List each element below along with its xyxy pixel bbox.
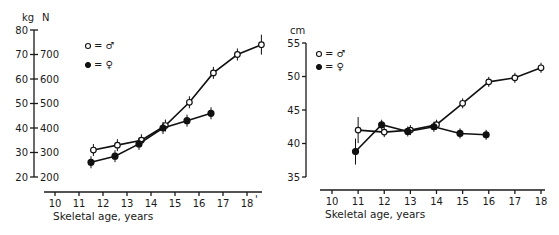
x-tick-label: 14 — [430, 196, 443, 207]
figure: 20304050607080200300400500600700kgN10111… — [0, 0, 559, 235]
y-tick-label-secondary: 600 — [40, 74, 59, 85]
x-tick-label: 15 — [456, 196, 469, 207]
female-data-point — [112, 153, 118, 159]
male-series-line — [93, 45, 261, 150]
y-unit-newton: N — [42, 12, 49, 23]
legend-open-circle-icon — [317, 52, 322, 57]
female-data-point — [431, 124, 437, 130]
y-tick-label: 30 — [15, 147, 28, 158]
male-data-point — [187, 99, 193, 105]
right-chart-length: 3540455055cm101112131415161718Skeletal a… — [287, 25, 547, 220]
male-data-point — [235, 52, 241, 58]
female-series-line — [356, 125, 487, 152]
y-tick-label-secondary: 200 — [40, 172, 59, 183]
female-data-point — [379, 122, 385, 128]
x-axis-label: Skeletal age, years — [325, 208, 425, 220]
male-data-point — [486, 79, 492, 85]
female-data-point — [483, 132, 489, 138]
male-data-point — [91, 147, 97, 153]
y-tick-label: 60 — [15, 74, 28, 85]
female-data-point — [208, 110, 214, 116]
female-data-point — [405, 128, 411, 134]
x-tick-label: 10 — [326, 196, 339, 207]
y-tick-label-secondary: 700 — [40, 49, 59, 60]
y-unit-cm: cm — [290, 25, 305, 36]
x-tick-label: 14 — [145, 198, 158, 209]
y-tick-label: 80 — [15, 25, 28, 36]
female-series-line — [91, 113, 211, 162]
y-tick-label-secondary: 300 — [40, 147, 59, 158]
x-end-mark: ' — [255, 194, 258, 205]
x-tick-label: 17 — [217, 198, 230, 209]
y-unit-kg: kg — [22, 12, 34, 23]
x-tick-label: 13 — [121, 198, 134, 209]
legend-filled-circle-icon — [316, 64, 321, 69]
male-data-point — [381, 129, 387, 135]
y-tick-label: 70 — [15, 49, 28, 60]
x-tick-label: 18 — [535, 196, 548, 207]
x-tick-label: 17 — [509, 196, 522, 207]
male-data-point — [538, 65, 544, 71]
legend-female-label: = ♀ — [325, 61, 344, 72]
y-tick-label: 55 — [287, 38, 300, 49]
x-tick-label: 10 — [49, 198, 62, 209]
male-data-point — [211, 70, 217, 76]
male-data-point — [512, 75, 518, 81]
male-data-point — [115, 142, 121, 148]
y-tick-label-secondary: 500 — [40, 98, 59, 109]
female-data-point — [136, 141, 142, 147]
male-data-point — [460, 101, 466, 107]
y-tick-label-secondary: 400 — [40, 123, 59, 134]
x-tick-label: 15 — [169, 198, 182, 209]
male-data-point — [355, 127, 361, 133]
y-tick-label: 50 — [287, 71, 300, 82]
legend-filled-circle-icon — [85, 62, 90, 67]
x-tick-label: 13 — [404, 196, 417, 207]
x-tick-label: 16 — [482, 196, 495, 207]
x-tick-label: 16 — [193, 198, 206, 209]
y-tick-label: 50 — [15, 98, 28, 109]
left-chart-strength: 20304050607080200300400500600700kgN10111… — [15, 12, 264, 222]
x-tick-label: 12 — [97, 198, 110, 209]
x-tick-label: 12 — [378, 196, 391, 207]
female-data-point — [353, 149, 359, 155]
x-tick-label: 18 — [241, 198, 254, 209]
y-tick-label: 20 — [15, 172, 28, 183]
x-tick-label: 11 — [352, 196, 365, 207]
y-tick-label: 45 — [287, 105, 300, 116]
legend-male-label: = ♂ — [94, 40, 115, 51]
female-data-point — [88, 159, 94, 165]
female-data-point — [457, 130, 463, 136]
male-data-point — [259, 42, 265, 48]
legend-male-label: = ♂ — [325, 48, 346, 59]
x-tick-label: 11 — [73, 198, 86, 209]
legend-open-circle-icon — [86, 44, 91, 49]
female-data-point — [184, 118, 190, 124]
female-data-point — [160, 125, 166, 131]
y-tick-label: 40 — [15, 123, 28, 134]
legend-female-label: = ♀ — [94, 59, 113, 70]
x-axis-label: Skeletal age, years — [53, 210, 153, 222]
y-tick-label: 35 — [287, 172, 300, 183]
y-tick-label: 40 — [287, 138, 300, 149]
